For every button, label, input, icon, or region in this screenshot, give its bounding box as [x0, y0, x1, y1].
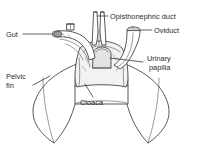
- label-cloaca: Cloaca: [80, 98, 104, 107]
- anatomy-figure: Opisthonephric duct Oviduct Gut Urinary …: [0, 0, 203, 146]
- label-pelvic-fin-line1: Pelvic: [6, 72, 26, 81]
- label-urinary-papilla-line1: Urinary: [147, 54, 171, 63]
- anatomy-diagram-canvas: Opisthonephric duct Oviduct Gut Urinary …: [0, 0, 203, 146]
- gut-tube: [52, 24, 95, 67]
- label-pelvic-fin-line2: fin: [6, 81, 14, 90]
- label-oviduct: Oviduct: [154, 26, 179, 35]
- label-opisthonephric-duct: Opisthonephric duct: [110, 12, 176, 21]
- opisthonephric-duct-tubes: [92, 12, 106, 45]
- left-pelvic-fin: [33, 63, 80, 143]
- right-pelvic-fin: [122, 63, 169, 143]
- urinary-papilla-bump: [93, 47, 111, 68]
- label-gut: Gut: [6, 30, 18, 39]
- label-urinary-papilla-line2: papilla: [149, 63, 171, 72]
